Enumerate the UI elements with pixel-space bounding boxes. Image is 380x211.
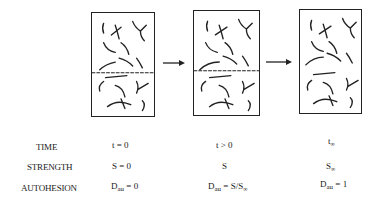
strength-intermediate: S <box>222 161 227 171</box>
row-label-strength: STRENGTH <box>27 162 72 172</box>
time-intermediate: t > 0 <box>216 140 233 150</box>
arrow-right-icon <box>266 58 292 66</box>
arrow-right-icon <box>163 59 185 67</box>
stage-initial-box <box>91 12 155 117</box>
polymer-chains-illustration <box>300 10 361 113</box>
autohesion-final: Dau = 1 <box>320 179 347 189</box>
autohesion-initial: Dau = 0 <box>111 181 138 191</box>
time-final: t∞ <box>328 136 335 146</box>
stage-final-box <box>299 9 362 114</box>
autohesion-intermediate: Dau = S/S∞ <box>208 181 247 191</box>
strength-final: S∞ <box>326 161 335 171</box>
polymer-chains-illustration <box>194 11 259 115</box>
strength-initial: S = 0 <box>112 161 131 171</box>
row-label-time: TIME <box>36 142 57 152</box>
row-label-autohesion: AUTOHESION <box>21 183 77 193</box>
stage-intermediate-box <box>193 10 260 116</box>
polymer-chains-illustration <box>92 13 154 116</box>
time-initial: t = 0 <box>112 140 129 150</box>
